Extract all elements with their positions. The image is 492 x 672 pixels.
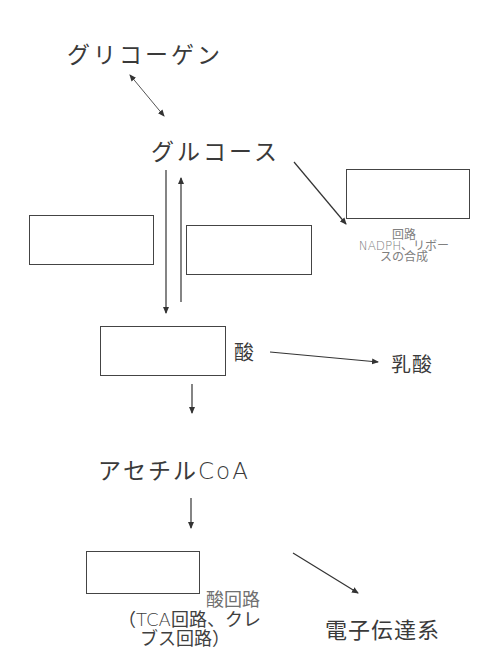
- pyruvate-suffix-label: 酸: [234, 337, 254, 366]
- arrows-layer: [0, 0, 492, 672]
- lactate-label: 乳酸: [391, 349, 433, 378]
- glucose-label: グルコース: [151, 133, 280, 167]
- gluconeogenesis-blank-box: [186, 225, 312, 275]
- pentose-phosphate-caption: 回路 NADPH、リボー スの合成: [356, 230, 452, 263]
- pyruvate-blank-box: [100, 326, 226, 376]
- acetyl-coa-label: アセチルCoA: [98, 452, 250, 486]
- glycogen-glucose-arrow: [130, 75, 164, 116]
- citric-acid-blank-box: [86, 551, 200, 594]
- electron-transport-label: 電子伝達系: [325, 612, 440, 644]
- glycolysis-blank-box: [29, 215, 154, 265]
- tca-caption-line2: （TCA回路、クレ: [118, 611, 261, 629]
- pentose-caption-line3: スの合成: [356, 252, 452, 263]
- pentose-phosphate-blank-box: [346, 169, 470, 219]
- pyruvate-lactate-arrow: [270, 352, 378, 362]
- tca-caption-line3: ブス回路）: [140, 630, 230, 648]
- glycogen-label: グリコーゲン: [67, 36, 223, 70]
- tca-caption-line1: 酸回路: [206, 591, 260, 609]
- glucose-pentose-arrow: [294, 162, 346, 224]
- tca-electron-arrow: [293, 553, 358, 593]
